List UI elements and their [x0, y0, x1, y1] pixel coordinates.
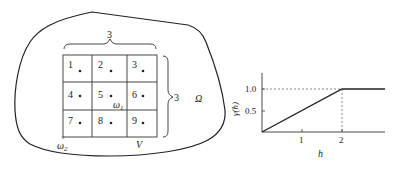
- omega2-label: ω2: [57, 140, 68, 153]
- width-brace: [64, 39, 156, 49]
- xtick-2: 2: [339, 135, 344, 145]
- cell-label-5: 5: [98, 89, 103, 100]
- figure-canvas: 3 3 1 2 3 4 5 6 7 8 9 ω1 × ω2 V Ω: [0, 0, 401, 173]
- cell-label-3: 3: [132, 59, 137, 70]
- variogram-curve: [262, 89, 385, 132]
- xtick-1: 1: [299, 135, 304, 145]
- x-axis-label: h: [318, 148, 323, 159]
- cell-label-4: 4: [68, 89, 73, 100]
- region-omega-label: Ω: [195, 93, 202, 104]
- block-v-label: V: [136, 139, 144, 150]
- height-brace: [163, 56, 173, 137]
- height-label: 3: [174, 92, 179, 103]
- ytick-1.0: 1.0: [245, 84, 257, 94]
- y-axis-label: γ(h): [230, 102, 240, 116]
- cell-label-9: 9: [132, 115, 137, 126]
- cell-label-7: 7: [68, 115, 73, 126]
- ytick-0.5: 0.5: [245, 106, 257, 116]
- region-omega-outline: [15, 12, 225, 156]
- variogram-chart: 1.0 0.5 1 2 h γ(h): [230, 73, 385, 159]
- width-label: 3: [107, 29, 112, 40]
- cell-label-2: 2: [98, 59, 103, 70]
- cell-label-1: 1: [68, 59, 73, 70]
- cell-label-6: 6: [132, 89, 137, 100]
- cell-label-8: 8: [98, 115, 103, 126]
